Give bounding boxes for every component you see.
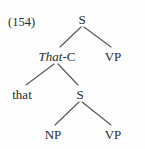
tree-edges-layer: [0, 0, 145, 149]
tree-node-vp-upper: VP: [105, 50, 122, 63]
tree-diagram-figure: (154) S That-C VP that S NP VP: [0, 0, 145, 149]
tree-node-root-s: S: [78, 13, 85, 26]
edge-thatc-to-s: [58, 64, 78, 85]
tree-node-np-lower: NP: [45, 128, 62, 141]
edge-s-to-vp: [82, 102, 111, 125]
edge-root-to-vp: [84, 27, 111, 47]
edge-s-to-np: [55, 102, 79, 125]
edge-root-to-thatc: [60, 27, 81, 47]
edge-thatc-to-that: [26, 64, 54, 85]
tree-node-that-c-italic-part: That: [39, 49, 63, 64]
tree-node-that-leaf: that: [12, 88, 32, 101]
tree-node-vp-lower: VP: [105, 128, 122, 141]
tree-node-that-c: That-C: [39, 50, 76, 63]
tree-node-inner-s: S: [76, 88, 83, 101]
tree-node-that-c-suffix: -C: [62, 49, 75, 64]
